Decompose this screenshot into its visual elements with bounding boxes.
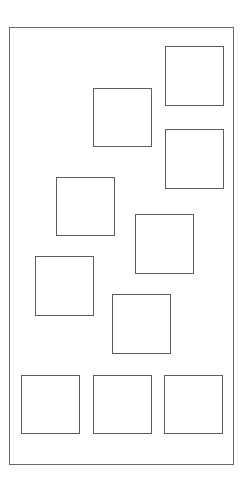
square-box — [135, 214, 194, 274]
square-box — [35, 256, 94, 316]
square-box — [165, 46, 224, 106]
square-box — [164, 375, 223, 434]
square-box — [93, 375, 152, 434]
square-box — [56, 177, 115, 236]
diagram-canvas — [0, 0, 249, 478]
square-box — [21, 375, 80, 434]
square-box — [93, 88, 152, 147]
square-box — [165, 129, 224, 189]
square-box — [112, 294, 171, 354]
